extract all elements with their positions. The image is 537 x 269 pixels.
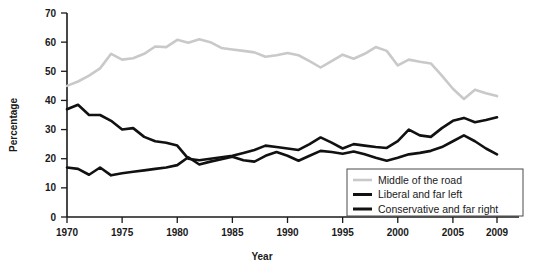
legend-label-0: Middle of the road — [378, 174, 462, 186]
y-tick-label: 70 — [45, 8, 57, 19]
y-tick-label: 20 — [45, 153, 57, 164]
x-tick-label: 2009 — [486, 227, 509, 238]
legend-label-2: Conservative and far right — [378, 203, 498, 215]
x-tick-label: 1990 — [276, 227, 299, 238]
y-tick-label: 60 — [45, 37, 57, 48]
y-tick-label: 40 — [45, 95, 57, 106]
x-axis-title: Year — [251, 251, 272, 262]
x-tick-label: 2005 — [442, 227, 465, 238]
legend-label-1: Liberal and far left — [378, 188, 462, 200]
y-tick-label: 50 — [45, 66, 57, 77]
x-tick-label: 1975 — [111, 227, 134, 238]
x-tick-label: 2000 — [387, 227, 410, 238]
x-tick-label: 1995 — [332, 227, 355, 238]
y-tick-label: 0 — [50, 212, 56, 223]
x-tick-label: 1980 — [166, 227, 189, 238]
y-tick-label: 30 — [45, 124, 57, 135]
chart-legend: Middle of the roadLiberal and far leftCo… — [347, 169, 523, 216]
y-tick-label: 10 — [45, 182, 57, 193]
line-chart: 010203040506070 197019751980198519901995… — [0, 0, 537, 269]
x-tick-label: 1970 — [56, 227, 79, 238]
y-axis-title: Percentage — [8, 98, 19, 152]
x-tick-label: 1985 — [221, 227, 244, 238]
